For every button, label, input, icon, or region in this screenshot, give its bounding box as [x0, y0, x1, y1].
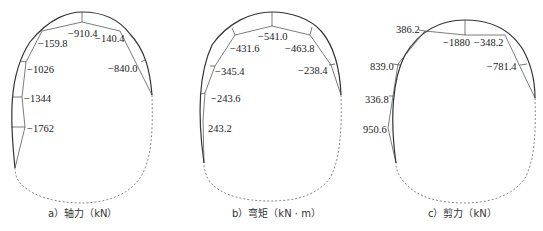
caption-a: a）轴力（kN）: [48, 207, 117, 219]
value-label: −431.6: [230, 43, 260, 54]
value-label: −840.0: [108, 63, 138, 74]
lining-outline-dashed: [15, 95, 152, 203]
shear-diagram-line: [388, 31, 535, 163]
value-label: −348.2: [474, 37, 504, 48]
value-label: −910.4: [68, 28, 98, 39]
ordinate: [419, 30, 425, 31]
value-label: 839.0: [370, 61, 394, 72]
value-label: −140.4: [95, 33, 125, 44]
value-label: −243.6: [211, 93, 241, 104]
value-label: −463.8: [285, 43, 315, 54]
value-label: 950.6: [363, 124, 387, 135]
panel-bending-moment: −541.0 −431.6 −463.8 −345.4 −238.4 −243.…: [200, 12, 341, 219]
value-label: 336.8: [365, 94, 389, 105]
ordinate: [232, 28, 235, 35]
value-label: −1762: [27, 123, 54, 134]
value-label: −345.4: [215, 66, 245, 77]
value-label: −1026: [27, 64, 54, 75]
value-label: −781.4: [487, 61, 517, 72]
panel-shear-force: 386.2 −1880 −348.2 839.0 −781.4 336.8 95…: [363, 20, 535, 219]
lining-outline-dashed: [204, 95, 341, 201]
value-label: −541.0: [258, 31, 288, 42]
value-label: 243.2: [208, 123, 232, 134]
ordinate: [393, 64, 400, 65]
value-label: −1344: [24, 93, 52, 104]
ordinate: [520, 64, 527, 65]
ordinate: [20, 61, 26, 62]
panel-axial-force: −910.4 −140.4 −159.8 −1026 −840.0 −1344 …: [11, 12, 152, 219]
value-label: 386.2: [396, 24, 420, 35]
value-label: −159.8: [38, 38, 68, 49]
ordinate: [141, 60, 145, 62]
ordinate: [329, 64, 335, 65]
ordinate: [201, 93, 205, 94]
internal-force-diagrams: −910.4 −140.4 −159.8 −1026 −840.0 −1344 …: [0, 0, 543, 231]
value-label: −1880: [443, 37, 470, 48]
lining-outline-dashed: [396, 98, 535, 203]
caption-c: c）剪力（kN）: [428, 207, 497, 219]
ordinate: [310, 27, 312, 35]
value-label: −238.4: [298, 65, 328, 76]
caption-b: b）弯矩（kN · m）: [232, 207, 321, 219]
